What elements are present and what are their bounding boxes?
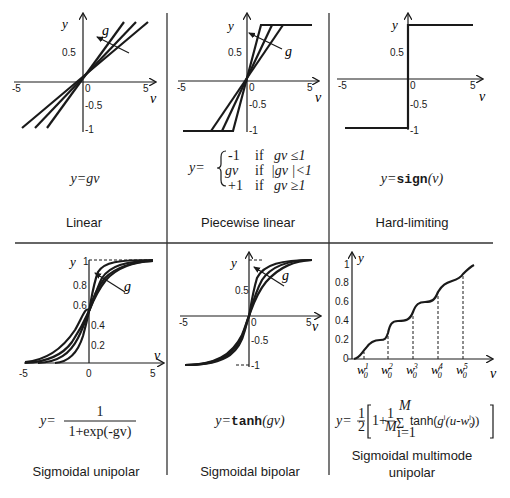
tick-y-04: 0.4 xyxy=(91,320,105,331)
tick-x-max: 5 xyxy=(306,317,312,328)
tick-origin: 0 xyxy=(410,80,416,91)
threshold-label-2: w20 xyxy=(381,362,393,380)
y-label: y xyxy=(60,16,68,31)
formula-denominator: 1+exp(-gv) xyxy=(68,424,131,440)
tick-y-neg-one: -1 xyxy=(410,125,419,136)
tick-y-neg-half: -0.5 xyxy=(249,99,267,110)
gain-label: g xyxy=(124,279,131,294)
panel-sigmoidal-unipolar: g y v 1 0.8 0.6 0.4 0.2 -5 0 5 y= 1 1+ex… xyxy=(19,254,163,479)
tick-y-06: 0.6 xyxy=(335,296,349,307)
caption-sigmoidal-unipolar: Sigmoidal unipolar xyxy=(33,464,141,479)
tick-origin: 0 xyxy=(86,368,92,379)
tick-origin: 0 xyxy=(251,317,257,328)
formula-multimode: y= 1 2 1+ 1 M M Σ i=1 tanh(gi(u-w0i)) xyxy=(334,398,493,440)
formula-tanh: tanh(gi(u-w0i)) xyxy=(410,413,479,429)
y-label: y xyxy=(390,17,398,32)
threshold-label-1: w10 xyxy=(357,362,369,380)
y-label: y xyxy=(226,18,234,33)
sign-curve xyxy=(345,25,473,128)
tick-x-max: 5 xyxy=(150,368,156,379)
formula-numerator: 1 xyxy=(97,404,104,419)
tick-y-06: 0.6 xyxy=(73,300,87,311)
tick-x-min: -5 xyxy=(179,317,188,328)
y-label: y xyxy=(68,254,76,269)
case-2-if: if xyxy=(255,163,264,178)
tick-y-08: 0.8 xyxy=(335,277,349,288)
tick-y-neg-one: -1 xyxy=(251,360,260,371)
tick-x-max: 5 xyxy=(470,80,476,91)
case-3-if: if xyxy=(255,178,264,193)
activation-functions-figure: g y v -5 5 0 0.5 -0.5 -1 y=gv Linear g y… xyxy=(0,0,510,498)
x-label: v xyxy=(312,319,319,334)
tick-y-02: 0.2 xyxy=(91,340,105,351)
tick-x-min: -5 xyxy=(12,83,21,94)
formula-piecewise: y= -1 if gv ≤1 gv if |gv |<1 +1 if gv ≥1 xyxy=(187,148,312,193)
panel-linear: g y v -5 5 0 0.5 -0.5 -1 y=gv Linear xyxy=(12,14,157,230)
threshold-label-3: w30 xyxy=(406,362,418,380)
caption-multimode-line2: unipolar xyxy=(389,465,436,480)
sum-top: M xyxy=(398,398,412,413)
tick-y-pos: 0.5 xyxy=(390,47,404,58)
caption-linear: Linear xyxy=(66,215,103,230)
tick-origin: 0 xyxy=(85,83,91,94)
formula-hard-limiting: y=sign(v) xyxy=(379,171,444,187)
x-label: v xyxy=(315,90,322,105)
threshold-label-4: w40 xyxy=(431,362,443,380)
panel-sigmoidal-multimode-unipolar: y v 1 0.8 0.6 0.4 0.2 0 w10 w20 w30 w40 … xyxy=(334,250,497,480)
tick-y-02: 0.2 xyxy=(335,334,349,345)
x-label: v xyxy=(150,91,157,106)
right-bracket-icon xyxy=(490,405,493,438)
caption-multimode-line1: Sigmoidal multimode xyxy=(352,448,473,463)
tick-x-min: -5 xyxy=(19,368,28,379)
formula-lhs: y= xyxy=(38,413,56,428)
gain-label: g xyxy=(102,23,109,38)
tick-y-zero: 0 xyxy=(343,353,349,364)
line-high-gain xyxy=(47,22,124,128)
half-denominator: 2 xyxy=(358,419,365,434)
x-label: v xyxy=(490,366,497,381)
tick-y-neg-half: -0.5 xyxy=(410,99,428,110)
tick-y-neg-half: -0.5 xyxy=(251,335,269,346)
tick-y-04: 0.4 xyxy=(335,315,349,326)
formula-lhs: y= xyxy=(334,413,352,428)
tick-origin: 0 xyxy=(249,82,255,93)
x-label: v xyxy=(479,89,486,104)
case-1-value: -1 xyxy=(228,148,240,163)
tick-y-pos: 0.5 xyxy=(228,47,242,58)
case-2-value: gv xyxy=(225,163,239,178)
tick-x-max: 5 xyxy=(143,83,149,94)
y-label: y xyxy=(229,255,237,270)
tick-y-one: 1 xyxy=(344,259,350,270)
panel-piecewise-linear: g y v -5 5 0 0.5 -0.5 -1 y= -1 if gv ≤1 … xyxy=(177,14,322,230)
tick-y-neg-one: -1 xyxy=(85,124,94,135)
caption-piecewise-linear: Piecewise linear xyxy=(201,215,296,230)
tick-y-one: 1 xyxy=(83,256,89,267)
threshold-label-5: w50 xyxy=(456,362,468,380)
tick-y-08: 0.8 xyxy=(73,280,87,291)
multimode-curve xyxy=(354,265,474,359)
tick-y-pos: 0.5 xyxy=(62,47,76,58)
caption-hard-limiting: Hard-limiting xyxy=(376,215,449,230)
formula-lhs: y= xyxy=(187,160,205,175)
formula-linear: y=gv xyxy=(69,171,101,186)
threshold-labels: w10 w20 w30 w40 w50 xyxy=(357,362,468,380)
case-2-cond: |gv |<1 xyxy=(271,163,312,178)
gain-label: g xyxy=(285,44,292,59)
tick-x-min: -5 xyxy=(338,80,347,91)
tick-y-neg-one: -1 xyxy=(249,125,258,136)
tick-x-max: 5 xyxy=(307,82,313,93)
tick-y-neg-half: -0.5 xyxy=(85,100,103,111)
gain-label: g xyxy=(282,268,289,283)
case-1-if: if xyxy=(255,148,264,163)
tick-y-pos: 0.5 xyxy=(235,285,249,296)
panel-hard-limiting: y v -5 5 0 0.5 -0.5 -1 y=sign(v) Hard-li… xyxy=(337,14,486,230)
panel-sigmoidal-bipolar: g y v -5 5 0 0.5 -0.5 -1 y=tanh(gv) Sigm… xyxy=(179,253,320,479)
x-label: v xyxy=(154,348,161,363)
left-bracket-icon xyxy=(368,405,371,438)
y-label: y xyxy=(356,250,364,265)
case-3-cond: gv ≥1 xyxy=(274,178,305,193)
formula-sigmoidal-unipolar: y= 1 1+exp(-gv) xyxy=(38,404,136,440)
case-1-cond: gv ≤1 xyxy=(274,148,305,163)
caption-sigmoidal-bipolar: Sigmoidal bipolar xyxy=(200,464,300,479)
formula-sigmoidal-bipolar: y=tanh(gv) xyxy=(213,413,285,429)
